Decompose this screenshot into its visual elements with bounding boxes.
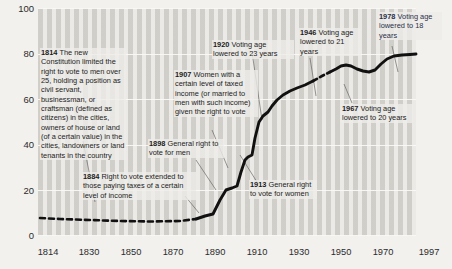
data-line-solid-late: [330, 54, 416, 72]
annotation-1884: 1884 Right to vote extended to those pay…: [82, 172, 196, 200]
data-line-dashed-early: [40, 218, 196, 222]
annotation-1967-year: 1967: [342, 104, 358, 113]
annotation-1898: 1898 General right to vote for men: [148, 139, 224, 158]
annotation-1920: 1920 Voting age lowered to 23 years: [212, 40, 294, 59]
annotation-1907: 1907 Women with a certain level of taxed…: [174, 70, 258, 117]
annotation-1946-year: 1946: [300, 28, 316, 37]
annotation-1814-year: 1814: [41, 48, 57, 57]
annotation-1967: 1967 Voting age lowered to 20 years: [341, 104, 413, 123]
annotation-1814: 1814 The new Constitution limited the ri…: [40, 48, 126, 160]
annotation-1913: 1913 General right to vote for women: [249, 180, 317, 199]
annotation-1978: 1978 Voting age lowered to 18 years: [378, 12, 442, 40]
annotation-1913-year: 1913: [250, 180, 266, 189]
annotation-1814-text: The new Constitution limited the right t…: [41, 48, 124, 160]
annotation-1898-year: 1898: [149, 139, 165, 148]
data-line-dashed-wargap: [313, 72, 330, 81]
annotation-1884-text: Right to vote extended to those paying t…: [83, 172, 184, 200]
chart-figure: 100 80 60 40 20 0 1814 1830 1850 1870 18…: [0, 0, 452, 269]
annotation-1907-year: 1907: [175, 70, 191, 79]
annotation-1978-year: 1978: [379, 12, 395, 21]
annotation-1884-year: 1884: [83, 172, 99, 181]
annotation-1946: 1946 Voting age lowered to 21 years: [299, 28, 361, 56]
annotation-1920-year: 1920: [213, 40, 229, 49]
